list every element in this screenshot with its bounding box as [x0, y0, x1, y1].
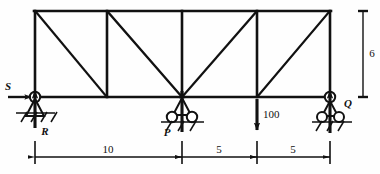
- label-Q: Q: [344, 97, 352, 109]
- roller-circle-right-right: [334, 112, 344, 122]
- dimension-height: [358, 11, 368, 97]
- dimension-span-chain: [35, 141, 330, 164]
- truss-members: [34, 11, 331, 97]
- roller-circle-right-left: [317, 112, 327, 122]
- label-P: P: [164, 126, 171, 138]
- label-S: S: [5, 80, 11, 92]
- member-diagonal-4: [258, 12, 329, 96]
- label-load-100: 100: [263, 108, 280, 120]
- member-diagonal-3: [183, 12, 256, 96]
- truss-diagram-figure: S R P Q 100 6 10 5 5: [0, 0, 380, 174]
- dim-label-2: 5: [290, 143, 296, 155]
- truss-diagram-canvas: S R P Q 100 6 10 5 5: [0, 0, 380, 174]
- roller-circle-middle-left: [167, 112, 177, 122]
- dim-label-0: 10: [103, 143, 115, 155]
- label-R: R: [40, 125, 48, 137]
- member-diagonal-2: [108, 12, 181, 96]
- roller-circle-middle-right: [187, 112, 197, 122]
- label-height-6: 6: [369, 47, 375, 59]
- dim-label-1: 5: [216, 143, 222, 155]
- member-diagonal-1: [36, 12, 106, 96]
